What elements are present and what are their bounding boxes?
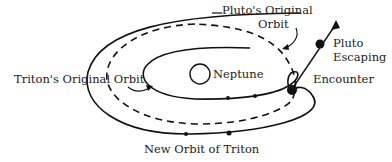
pluto-escaping-label-line1: Pluto [333,37,363,50]
orbit-marker-dot [226,96,230,100]
orbit-marker-dot [227,131,232,136]
neptune-label: Neptune [213,68,263,81]
tritons-original-orbit-label: Triton's Original Orbit [14,73,144,86]
triton-label-pointer [128,87,150,91]
orbit-marker-dot [253,94,257,98]
pointer-arrow-icon [282,44,289,50]
pluto-dot [316,40,325,49]
diagram-canvas: Pluto's Original Orbit Triton's Original… [0,0,392,162]
new-orbit-of-triton-label: New Orbit of Triton [144,143,259,156]
neptune-circle [190,64,210,84]
encounter-dot [287,85,297,95]
plutos-original-orbit-label-line2: Orbit [258,18,289,31]
orbit-marker-dot [184,132,188,136]
escape-arrow-icon [331,20,340,30]
plutos-original-orbit-label-line1: Pluto's Original [222,4,313,17]
pluto-escaping-label-line2: Escaping [333,51,386,64]
encounter-label: Encounter [313,73,374,86]
